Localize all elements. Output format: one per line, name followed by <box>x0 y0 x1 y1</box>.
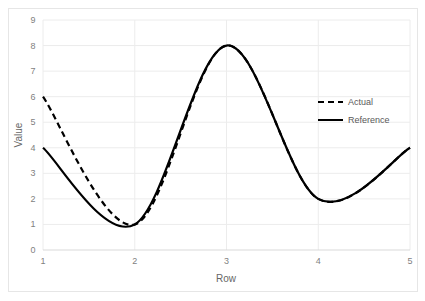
y-tick-label: 3 <box>30 168 35 178</box>
legend: Actual Reference <box>318 97 390 125</box>
x-tick-label: 5 <box>407 256 412 266</box>
y-tick-label: 5 <box>30 117 35 127</box>
y-tick-label: 8 <box>30 41 35 51</box>
y-tick-label: 6 <box>30 92 35 102</box>
x-tick-label: 3 <box>224 256 229 266</box>
y-axis-title: Value <box>13 122 24 147</box>
y-tick-label: 1 <box>30 219 35 229</box>
legend-reference-label: Reference <box>348 115 390 125</box>
legend-actual-label: Actual <box>348 97 373 107</box>
x-tick-label: 1 <box>40 256 45 266</box>
y-tick-label: 2 <box>30 194 35 204</box>
y-tick-label: 9 <box>30 15 35 25</box>
x-tick-label: 2 <box>132 256 137 266</box>
x-tick-label: 4 <box>316 256 321 266</box>
y-tick-label: 7 <box>30 66 35 76</box>
gridlines <box>43 20 410 250</box>
line-chart: 0123456789 12345 Row Value Actual Refere… <box>0 0 425 301</box>
y-tick-label: 0 <box>30 245 35 255</box>
x-axis-title: Row <box>216 273 237 284</box>
y-tick-label: 4 <box>30 143 35 153</box>
x-axis-ticks: 12345 <box>40 256 412 266</box>
y-axis-ticks: 0123456789 <box>30 15 35 255</box>
